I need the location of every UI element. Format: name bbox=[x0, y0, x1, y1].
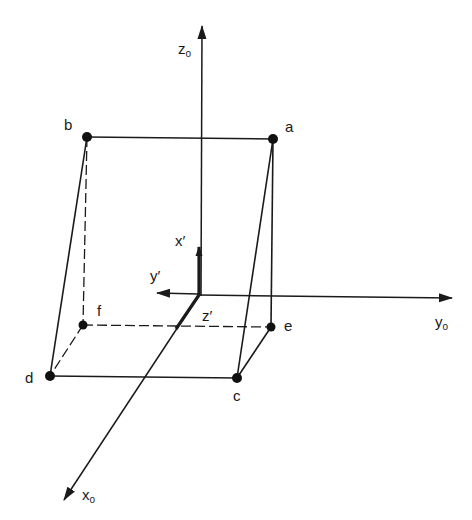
label-x-prime: x′ bbox=[175, 232, 186, 249]
label-b: b bbox=[64, 116, 72, 133]
vertex-f bbox=[79, 321, 88, 330]
label-d: d bbox=[25, 369, 33, 386]
label-y0: yo bbox=[435, 313, 449, 332]
edge-b-d bbox=[50, 137, 87, 376]
global-axes bbox=[64, 26, 452, 500]
vertex-a bbox=[268, 134, 278, 144]
y-prime-axis bbox=[157, 293, 199, 294]
box-solid-edges bbox=[50, 137, 273, 378]
vertex-c bbox=[232, 373, 242, 383]
edge-a-e bbox=[271, 139, 273, 327]
box-hidden-edges bbox=[50, 137, 271, 376]
vertices bbox=[45, 132, 278, 383]
z0-axis bbox=[201, 26, 202, 296]
edge-b-f bbox=[83, 137, 87, 325]
edge-b-a bbox=[87, 137, 273, 139]
label-y-prime: y′ bbox=[150, 267, 161, 284]
edge-c-e bbox=[237, 327, 271, 378]
y0-axis bbox=[199, 295, 452, 298]
edge-d-c bbox=[50, 376, 237, 378]
edge-a-c bbox=[237, 139, 273, 378]
vertex-d bbox=[45, 371, 55, 381]
edge-f-d bbox=[50, 325, 83, 376]
local-frame bbox=[157, 247, 199, 329]
label-z-prime: z′ bbox=[202, 307, 213, 324]
vertex-e bbox=[267, 323, 276, 332]
label-e: e bbox=[284, 317, 292, 334]
coordinate-frame-diagram: b a f e d c zo yo xo x′ y′ z′ bbox=[0, 0, 472, 520]
label-a: a bbox=[285, 118, 294, 135]
z-prime-axis bbox=[176, 295, 199, 329]
label-c: c bbox=[233, 387, 241, 404]
label-f: f bbox=[97, 302, 102, 319]
vertex-b bbox=[82, 132, 92, 142]
label-z0: zo bbox=[178, 40, 192, 59]
label-x0: xo bbox=[82, 486, 96, 505]
